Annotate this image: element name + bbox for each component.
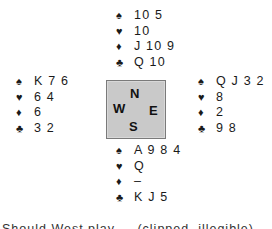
- east-spades: Q J 3 2: [216, 74, 265, 90]
- compass-south: S: [129, 119, 138, 134]
- north-spades-row: ♠ 10 5: [116, 8, 175, 24]
- east-hand: ♠ Q J 3 2 ♥ 8 ♦ 2 ♣ 9 8: [198, 74, 265, 136]
- compass-box: N W E S: [106, 80, 166, 139]
- diamond-icon: ♦: [198, 105, 216, 121]
- north-diamonds-row: ♦ J 10 9: [116, 39, 175, 55]
- south-hearts-row: ♥ Q: [116, 159, 181, 175]
- club-icon: ♣: [116, 190, 134, 206]
- clipped-caption: Should West play ... (clipped, illegible…: [0, 222, 272, 229]
- north-spades: 10 5: [134, 8, 163, 24]
- north-hearts: 10: [134, 24, 150, 40]
- west-spades-row: ♠ K 7 6: [16, 74, 69, 90]
- heart-icon: ♥: [116, 24, 134, 40]
- west-hearts: 6 4: [34, 90, 55, 106]
- west-diamonds-row: ♦ 6: [16, 105, 69, 121]
- spade-icon: ♠: [16, 74, 34, 90]
- east-hearts: 8: [216, 90, 224, 106]
- south-clubs: K J 5: [134, 190, 169, 206]
- south-clubs-row: ♣ K J 5: [116, 190, 181, 206]
- club-icon: ♣: [116, 55, 134, 71]
- south-diamonds: –: [134, 174, 142, 190]
- south-diamonds-row: ♦ –: [116, 174, 181, 190]
- south-hand: ♠ A 9 8 4 ♥ Q ♦ – ♣ K J 5: [116, 143, 181, 205]
- club-icon: ♣: [16, 121, 34, 137]
- spade-icon: ♠: [198, 74, 216, 90]
- club-icon: ♣: [198, 121, 216, 137]
- heart-icon: ♥: [198, 90, 216, 106]
- west-clubs-row: ♣ 3 2: [16, 121, 69, 137]
- south-hearts: Q: [134, 159, 145, 175]
- west-diamonds: 6: [34, 105, 42, 121]
- west-hearts-row: ♥ 6 4: [16, 90, 69, 106]
- diamond-icon: ♦: [116, 39, 134, 55]
- east-spades-row: ♠ Q J 3 2: [198, 74, 265, 90]
- north-hand: ♠ 10 5 ♥ 10 ♦ J 10 9 ♣ Q 10: [116, 8, 175, 70]
- spade-icon: ♠: [116, 143, 134, 159]
- east-hearts-row: ♥ 8: [198, 90, 265, 106]
- heart-icon: ♥: [16, 90, 34, 106]
- east-diamonds-row: ♦ 2: [198, 105, 265, 121]
- compass-west: W: [113, 101, 125, 116]
- heart-icon: ♥: [116, 159, 134, 175]
- compass-east: E: [149, 103, 158, 118]
- spade-icon: ♠: [116, 8, 134, 24]
- east-diamonds: 2: [216, 105, 224, 121]
- west-spades: K 7 6: [34, 74, 69, 90]
- caption-text: Should West play ... (clipped, illegible…: [0, 222, 272, 229]
- north-clubs: Q 10: [134, 55, 166, 71]
- south-spades-row: ♠ A 9 8 4: [116, 143, 181, 159]
- north-clubs-row: ♣ Q 10: [116, 55, 175, 71]
- north-diamonds: J 10 9: [134, 39, 175, 55]
- north-hearts-row: ♥ 10: [116, 24, 175, 40]
- west-clubs: 3 2: [34, 121, 55, 137]
- south-spades: A 9 8 4: [134, 143, 181, 159]
- west-hand: ♠ K 7 6 ♥ 6 4 ♦ 6 ♣ 3 2: [16, 74, 69, 136]
- east-clubs: 9 8: [216, 121, 237, 137]
- diamond-icon: ♦: [16, 105, 34, 121]
- diamond-icon: ♦: [116, 174, 134, 190]
- east-clubs-row: ♣ 9 8: [198, 121, 265, 137]
- compass-north: N: [130, 86, 139, 101]
